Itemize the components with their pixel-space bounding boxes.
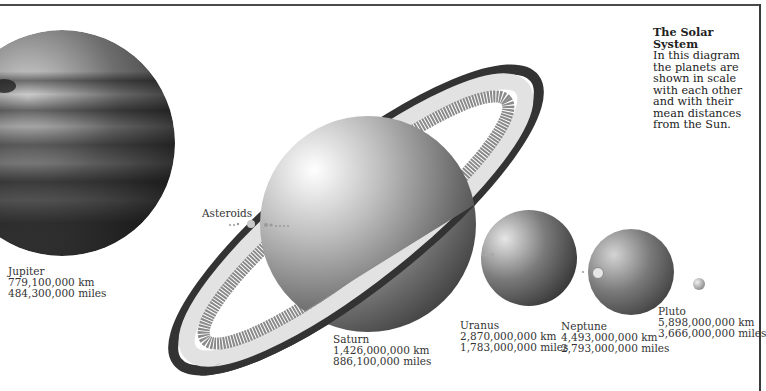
planet-distance-miles: 1,783,000,000 miles — [460, 342, 568, 353]
triton-moon — [593, 268, 604, 279]
planet-distance-miles: 2,793,000,000 miles — [561, 343, 669, 354]
pluto-label: Pluto 5,898,000,000 km 3,666,000,000 mil… — [658, 306, 766, 339]
neptune-label: Neptune 4,493,000,000 km 2,793,000,000 m… — [561, 321, 669, 354]
jupiter-planet — [0, 30, 180, 260]
planet-distance-miles: 484,300,000 miles — [8, 288, 106, 299]
saturn-label: Saturn 1,426,000,000 km 886,100,000 mile… — [333, 334, 431, 367]
asteroids-label: Asteroids — [202, 207, 252, 219]
uranus-label: Uranus 2,870,000,000 km 1,783,000,000 mi… — [460, 320, 568, 353]
planet-distance-miles: 886,100,000 miles — [333, 356, 431, 367]
caption-title: The Solar System — [653, 27, 758, 50]
caption-body: In this diagram the planets are shown in… — [653, 49, 742, 131]
planet-distance-miles: 3,666,000,000 miles — [658, 328, 766, 339]
figure-caption: The Solar System In this diagram the pla… — [653, 27, 758, 131]
pluto-planet — [693, 278, 705, 290]
uranus-planet — [481, 210, 577, 306]
jupiter-label: Jupiter 779,100,000 km 484,300,000 miles — [8, 266, 106, 299]
